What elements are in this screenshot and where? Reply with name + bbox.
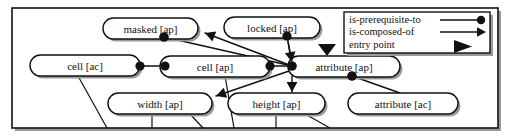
locked-ap-dot — [282, 31, 291, 40]
node-label-locked-ap: locked [ap] — [247, 22, 297, 34]
node-label-masked-ap: masked [ap] — [123, 23, 177, 35]
node-label-cell-ac: cell [ac] — [67, 60, 103, 72]
node-label-width-ap: width [ap] — [137, 98, 183, 110]
legend: is-prerequisite-to is-composed-of entry … — [344, 12, 493, 56]
masked-ap-dot — [159, 32, 168, 41]
legend-item-label-is-prerequisite-to: is-prerequisite-to — [349, 14, 421, 25]
graph-svg: masked [ap]locked [ap]cell [ac]cell [ap]… — [0, 0, 510, 139]
node-label-attribute-ap: attribute [ap] — [315, 61, 372, 73]
node-label-height-ap: height [ap] — [253, 98, 301, 110]
node-cell-ap[interactable]: cell [ap] — [160, 56, 273, 80]
node-label-attribute-ac: attribute [ac] — [375, 98, 432, 110]
node-width-ap[interactable]: width [ap] — [108, 93, 215, 117]
attribute-ap-bottom-dot — [347, 71, 356, 80]
prerequisite-dot-cell-ap — [265, 61, 274, 70]
cell-ap-dot — [160, 61, 169, 70]
node-label-cell-ap: cell [ap] — [197, 61, 233, 73]
prerequisite-dot-cell-ac — [135, 61, 144, 70]
attribute-ap-dot — [287, 61, 296, 70]
node-masked-ap[interactable]: masked [ap] — [103, 18, 201, 42]
node-attribute-ac[interactable]: attribute [ac] — [348, 93, 461, 117]
node-height-ap[interactable]: height [ap] — [228, 93, 328, 117]
legend-item-label-entry-point: entry point — [349, 39, 395, 50]
legend-item-label-is-composed-of: is-composed-of — [349, 26, 415, 37]
node-locked-ap[interactable]: locked [ap] — [224, 17, 323, 41]
diagram-canvas: masked [ap]locked [ap]cell [ac]cell [ap]… — [0, 0, 510, 139]
node-attribute-ap[interactable]: attribute [ap] — [288, 56, 403, 80]
node-cell-ac[interactable]: cell [ac] — [30, 55, 143, 79]
